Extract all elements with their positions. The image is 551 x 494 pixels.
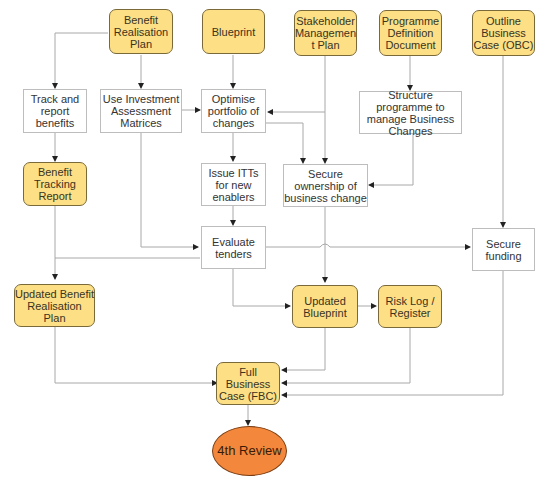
node-full-business-case[interactable]: Full Business Case (FBC) [216, 362, 280, 405]
node-label: Benefit Tracking Report [24, 166, 86, 202]
node-label: Secure ownership of business change [284, 168, 367, 204]
node-label: Outline Business Case (OBC) [473, 15, 534, 51]
node-evaluate-tenders[interactable]: Evaluate tenders [201, 226, 266, 269]
node-label: Track and report benefits [24, 93, 86, 129]
node-label: Stakeholder Managemen t Plan [295, 15, 356, 51]
node-stakeholder-management-plan[interactable]: Stakeholder Managemen t Plan [294, 10, 357, 56]
node-structure-programme[interactable]: Structure programme to manage Business C… [359, 91, 462, 134]
node-programme-definition-document[interactable]: Programme Definition Document [379, 10, 442, 56]
node-label: Risk Log / Register [379, 295, 441, 319]
node-outline-business-case[interactable]: Outline Business Case (OBC) [472, 10, 535, 56]
node-updated-benefit-realisation-plan[interactable]: Updated Benefit Realisation Plan [14, 284, 95, 327]
node-label: Structure programme to manage Business C… [360, 89, 461, 137]
node-label: Blueprint [212, 26, 255, 38]
connectors [0, 0, 551, 494]
node-secure-ownership[interactable]: Secure ownership of business change [283, 164, 368, 207]
node-blueprint[interactable]: Blueprint [202, 9, 265, 54]
node-label: Updated Benefit Realisation Plan [15, 288, 94, 324]
node-use-investment-matrices[interactable]: Use Investment Assessment Matrices [100, 89, 182, 133]
node-track-report-benefits[interactable]: Track and report benefits [23, 89, 87, 133]
node-label: Programme Definition Document [380, 15, 441, 51]
node-benefit-tracking-report[interactable]: Benefit Tracking Report [23, 162, 87, 206]
node-secure-funding[interactable]: Secure funding [472, 228, 535, 271]
node-label: Evaluate tenders [202, 236, 265, 260]
node-label: 4th Review [217, 445, 281, 457]
node-benefit-realisation-plan[interactable]: Benefit Realisation Plan [109, 9, 173, 54]
node-label: Secure funding [473, 238, 534, 262]
node-label: Issue ITTs for new enablers [202, 167, 265, 203]
node-updated-blueprint[interactable]: Updated Blueprint [292, 285, 358, 328]
node-label: Use Investment Assessment Matrices [101, 93, 181, 129]
node-optimise-portfolio[interactable]: Optimise portfolio of changes [201, 89, 266, 133]
node-label: Optimise portfolio of changes [202, 93, 265, 129]
node-issue-itts[interactable]: Issue ITTs for new enablers [201, 163, 266, 206]
node-label: Full Business Case (FBC) [217, 366, 279, 402]
node-label: Benefit Realisation Plan [110, 14, 172, 50]
node-risk-log-register[interactable]: Risk Log / Register [378, 285, 442, 328]
node-label: Updated Blueprint [293, 295, 357, 319]
node-fourth-review[interactable]: 4th Review [212, 426, 287, 476]
process-flow-diagram: Benefit Realisation Plan Blueprint Stake… [0, 0, 551, 494]
